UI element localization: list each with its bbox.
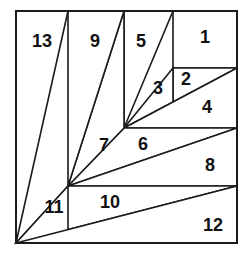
dissected-square-diagram: 12345678910111213 bbox=[0, 0, 249, 258]
region-label-11: 11 bbox=[44, 197, 63, 217]
region-label-9: 9 bbox=[90, 31, 100, 51]
figure-container: 12345678910111213 bbox=[0, 0, 249, 258]
region-label-1: 1 bbox=[200, 27, 210, 47]
region-label-7: 7 bbox=[99, 135, 109, 155]
region-label-5: 5 bbox=[136, 31, 146, 51]
region-label-8: 8 bbox=[205, 155, 215, 175]
region-label-6: 6 bbox=[138, 134, 148, 154]
region-label-3: 3 bbox=[153, 78, 163, 98]
region-label-2: 2 bbox=[181, 69, 191, 89]
region-label-12: 12 bbox=[203, 215, 223, 235]
region-label-13: 13 bbox=[32, 31, 52, 51]
region-label-10: 10 bbox=[100, 192, 120, 212]
region-label-4: 4 bbox=[202, 97, 212, 117]
